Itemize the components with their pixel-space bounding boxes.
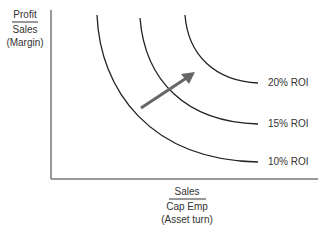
arrow-icon: [141, 72, 195, 108]
curve-15-roi: [140, 18, 258, 124]
curve-20-roi: [185, 15, 258, 83]
y-label-note: (Margin): [6, 37, 43, 48]
curve-10-roi: [97, 15, 258, 162]
curve-label-15: 15% ROI: [268, 118, 309, 129]
x-label-denominator: Cap Emp: [166, 201, 208, 212]
y-label-numerator: Profit: [13, 9, 37, 20]
curve-label-10: 10% ROI: [268, 156, 309, 167]
y-label-denominator: Sales: [12, 24, 37, 35]
curve-label-20: 20% ROI: [268, 77, 309, 88]
roi-isoquant-diagram: 20% ROI 15% ROI 10% ROI Profit Sales (Ma…: [0, 0, 320, 231]
x-label-note: (Asset turn): [161, 214, 213, 225]
x-label-numerator: Sales: [174, 186, 199, 197]
